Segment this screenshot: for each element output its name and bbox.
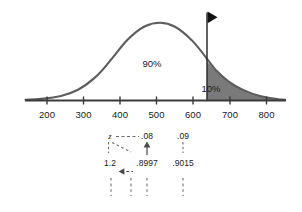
ztable-column-header-08: .08 (141, 131, 153, 141)
x-axis-tick-labels: 200 300 400 500 600 700 800 (39, 109, 274, 120)
ztable-cell-9015: .9015 (172, 158, 194, 168)
axis-tick-label-400: 400 (112, 109, 128, 120)
ztable-row-header-symbol: z (107, 131, 112, 141)
ztable-bottom-dash-guides (111, 178, 183, 196)
tail-region-label: 10% (201, 83, 221, 94)
axis-tick-label-200: 200 (39, 109, 55, 120)
ztable-up-arrow-icon (144, 142, 151, 155)
ztable-diagonal-connector-dash (112, 143, 131, 153)
upper-tail-shaded-region (207, 62, 285, 100)
flag-marker-icon (208, 12, 218, 24)
axis-tick-label-700: 700 (222, 109, 238, 120)
ztable-left-arrow-icon (119, 168, 133, 174)
ztable-column-header-09: .09 (177, 131, 189, 141)
ztable-row-label: 1.2 (104, 158, 116, 168)
axis-tick-label-300: 300 (76, 109, 92, 120)
axis-tick-label-600: 600 (185, 109, 201, 120)
body-region-label: 90% (142, 58, 162, 69)
z-table-fragment: z .08 .09 1.2 .8997 .9015 (104, 131, 194, 196)
ztable-cell-8997: .8997 (136, 158, 158, 168)
axis-tick-label-800: 800 (259, 109, 275, 120)
distribution-chart-svg: 200 300 400 500 600 700 800 90% 10% z .0… (0, 0, 302, 212)
normal-distribution-figure: 200 300 400 500 600 700 800 90% 10% z .0… (0, 0, 302, 212)
axis-tick-label-500: 500 (149, 109, 165, 120)
